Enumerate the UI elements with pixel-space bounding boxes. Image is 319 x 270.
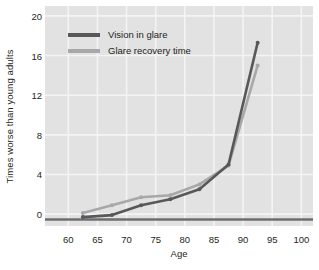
data-point [110, 203, 114, 207]
legend-label: Glare recovery time [108, 45, 191, 56]
x-tick-label: 65 [92, 234, 103, 245]
chart-figure: Times worse than young adults 048121620 … [0, 0, 319, 270]
y-axis-title-text: Times worse than young adults [4, 49, 15, 183]
series-line [83, 65, 258, 213]
series-vision-in-glare [81, 41, 260, 219]
y-axis-tick-labels: 048121620 [18, 0, 45, 232]
y-axis-title: Times worse than young adults [0, 0, 18, 232]
x-tick-label: 100 [293, 234, 309, 245]
x-tick-label: 60 [63, 234, 74, 245]
y-tick-label: 0 [37, 209, 42, 220]
legend-swatch-icon [68, 49, 100, 53]
legend-item: Vision in glare [68, 28, 191, 41]
x-tick-label: 75 [150, 234, 161, 245]
data-point [168, 193, 172, 197]
chart-legend: Vision in glareGlare recovery time [68, 28, 191, 57]
data-point [256, 41, 260, 45]
x-tick-label: 85 [209, 234, 220, 245]
x-axis-title: Age [45, 248, 313, 259]
x-tick-label: 80 [180, 234, 191, 245]
data-point [168, 197, 172, 201]
data-point [110, 213, 114, 217]
y-tick-label: 8 [37, 129, 42, 140]
legend-label: Vision in glare [108, 29, 168, 40]
y-tick-label: 16 [31, 50, 42, 61]
data-point [81, 211, 85, 215]
data-point [197, 182, 201, 186]
x-tick-label: 95 [267, 234, 278, 245]
data-point [139, 203, 143, 207]
data-point [197, 187, 201, 191]
data-point [227, 163, 231, 167]
x-tick-label: 90 [238, 234, 249, 245]
series-line [83, 43, 258, 217]
x-tick-label: 70 [121, 234, 132, 245]
y-tick-label: 4 [37, 169, 42, 180]
data-point [81, 215, 85, 219]
data-point [139, 195, 143, 199]
legend-swatch-icon [68, 33, 100, 37]
legend-item: Glare recovery time [68, 44, 191, 57]
series-glare-recovery-time [81, 63, 260, 215]
y-tick-label: 20 [31, 10, 42, 21]
x-axis-tick-labels: 6065707580859095100 [45, 232, 313, 248]
data-point [256, 63, 260, 67]
y-tick-label: 12 [31, 90, 42, 101]
